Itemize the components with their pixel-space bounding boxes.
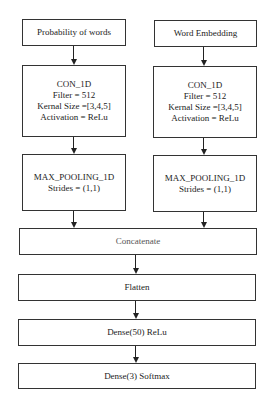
node-label: Word Embedding <box>174 28 238 39</box>
dense3-softmax-node: Dense(3) Softmax <box>18 363 256 389</box>
pool-title: MAX_POOLING_1D <box>165 173 246 184</box>
conv-filter: Filter = 512 <box>184 91 227 102</box>
conv-activation: Activation = ReLu <box>171 113 239 124</box>
arrow-concat-to-flatten <box>135 255 136 268</box>
input-word-embedding-node: Word Embedding <box>154 20 257 47</box>
conv-filter: Filter = 512 <box>53 90 96 101</box>
maxpool-right-node: MAX_POOLING_1D Strides = (1,1) <box>153 155 257 212</box>
arrow-right-input-to-conv <box>203 47 204 60</box>
conv-kernel-size: Kernal Size =[3,4,5] <box>168 102 242 113</box>
pool-strides: Strides = (1,1) <box>48 183 100 194</box>
arrow-dense50-to-dense3 <box>135 346 136 357</box>
node-label: Flatten <box>125 282 150 293</box>
node-label: Concatenate <box>116 236 160 247</box>
node-label: Dense(50) ReLu <box>107 327 167 338</box>
arrow-flatten-to-dense50 <box>135 301 136 313</box>
arrow-left-pool-to-concat <box>73 211 74 222</box>
node-label: Probability of words <box>37 27 111 38</box>
arrow-right-pool-to-concat <box>203 212 204 222</box>
conv1d-right-node: CON_1D Filter = 512 Kernal Size =[3,4,5]… <box>153 66 257 138</box>
pool-title: MAX_POOLING_1D <box>34 172 115 183</box>
conv-title: CON_1D <box>57 79 92 90</box>
conv-title: CON_1D <box>188 80 223 91</box>
dense50-node: Dense(50) ReLu <box>18 319 256 346</box>
flatten-node: Flatten <box>18 274 256 301</box>
input-probability-of-words-node: Probability of words <box>22 19 126 46</box>
conv-kernel-size: Kernal Size =[3,4,5] <box>37 101 111 112</box>
arrow-right-conv-to-pool <box>203 138 204 149</box>
arrow-left-conv-to-pool <box>73 137 74 148</box>
concatenate-node: Concatenate <box>19 228 257 255</box>
pool-strides: Strides = (1,1) <box>179 184 231 195</box>
conv-activation: Activation = ReLu <box>40 112 108 123</box>
arrow-left-input-to-conv <box>73 46 74 59</box>
conv1d-left-node: CON_1D Filter = 512 Kernal Size =[3,4,5]… <box>22 65 126 137</box>
maxpool-left-node: MAX_POOLING_1D Strides = (1,1) <box>22 154 126 211</box>
node-label: Dense(3) Softmax <box>104 371 170 382</box>
